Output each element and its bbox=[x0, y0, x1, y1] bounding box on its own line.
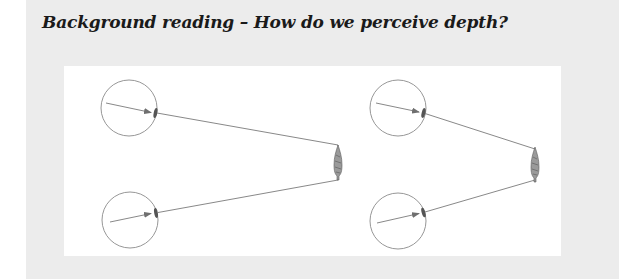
arrow-icon bbox=[376, 103, 419, 112]
sight-line bbox=[425, 114, 535, 150]
eyeball-icon bbox=[370, 193, 426, 249]
depth-perception-diagram bbox=[0, 0, 619, 279]
arrow-icon bbox=[377, 214, 419, 224]
eye-bottom-right bbox=[370, 180, 535, 249]
right-scene bbox=[370, 80, 539, 249]
sight-line bbox=[158, 180, 338, 213]
eye-top-left bbox=[101, 80, 338, 145]
left-scene bbox=[101, 80, 342, 248]
arrow-icon bbox=[110, 214, 151, 223]
eyeball-icon bbox=[102, 192, 158, 248]
tree-icon bbox=[531, 147, 539, 182]
tree-icon bbox=[334, 145, 342, 180]
arrow-icon bbox=[106, 103, 151, 113]
sight-line bbox=[157, 113, 338, 145]
sight-line bbox=[425, 180, 535, 212]
eye-bottom-left bbox=[102, 180, 338, 248]
eye-top-right bbox=[370, 80, 535, 149]
